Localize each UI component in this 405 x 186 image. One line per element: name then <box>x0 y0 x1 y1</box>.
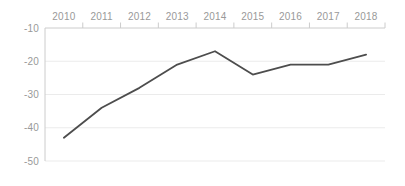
x-axis-label: 2016 <box>279 11 302 22</box>
y-axis-label: -10 <box>24 23 39 34</box>
y-axis-label: -50 <box>24 156 39 167</box>
y-axis-label: -40 <box>24 122 39 133</box>
x-axis-label: 2015 <box>241 11 264 22</box>
line-chart: -10-20-30-40-502010201120122013201420152… <box>0 0 405 186</box>
y-axis-label: -30 <box>24 89 39 100</box>
x-axis-label: 2014 <box>203 11 226 22</box>
x-axis-label: 2017 <box>317 11 340 22</box>
y-axis-label: -20 <box>24 56 39 67</box>
x-axis-label: 2018 <box>355 11 378 22</box>
x-axis-label: 2010 <box>52 11 75 22</box>
chart-container: -10-20-30-40-502010201120122013201420152… <box>0 0 405 186</box>
x-axis-label: 2011 <box>91 11 114 22</box>
x-axis-label: 2012 <box>128 11 151 22</box>
x-axis-label: 2013 <box>166 11 189 22</box>
